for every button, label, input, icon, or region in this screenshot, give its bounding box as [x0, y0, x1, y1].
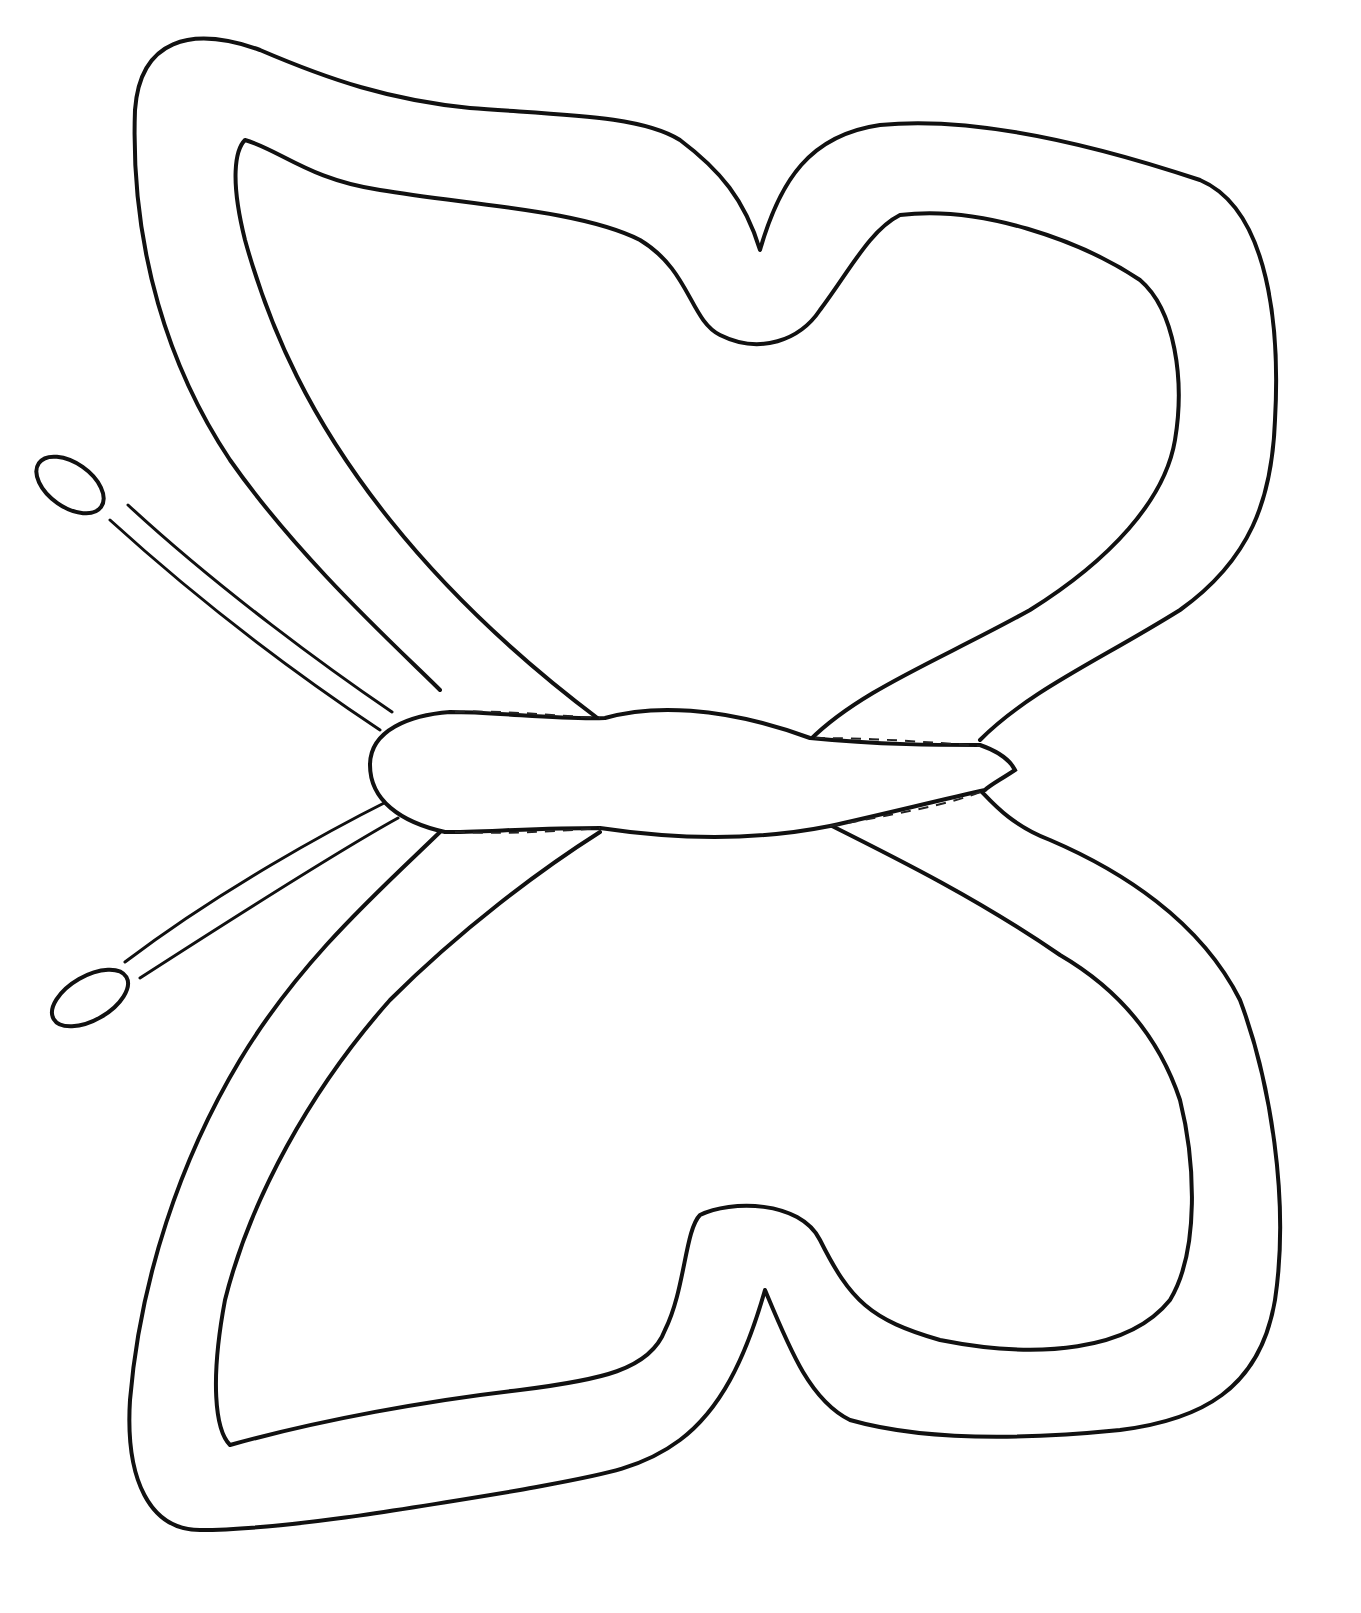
lower-wing-inner	[216, 825, 1192, 1445]
upper-wing-inner	[236, 140, 1179, 740]
antenna-lower	[43, 800, 398, 1038]
coloring-page	[0, 0, 1361, 1613]
butterfly-illustration	[0, 0, 1361, 1613]
butterfly-body	[370, 710, 1015, 837]
lower-wing-outer	[129, 790, 1280, 1530]
